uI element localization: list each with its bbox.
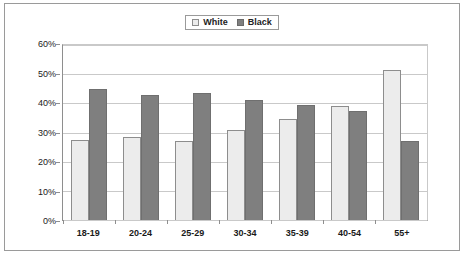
plot-area [62,44,428,221]
bar-black-55+[interactable] [401,141,419,220]
y-tick-label: 60% [38,39,56,49]
x-tick-label-25-29: 25-29 [167,228,219,238]
x-axis: 18-1920-2425-2930-3435-3940-5455+ [62,228,428,238]
bar-black-25-29[interactable] [193,93,211,220]
y-tick-label: 20% [38,157,56,167]
y-tick-mark [56,192,60,193]
x-tick-mark [167,220,168,224]
y-tick-mark [56,44,60,45]
x-tick-mark [219,220,220,224]
bar-white-35-39[interactable] [279,119,297,220]
y-tick-mark [56,74,60,75]
bar-white-18-19[interactable] [71,140,89,220]
x-tick-label-55+: 55+ [376,228,428,238]
chart-legend: White Black [5,15,459,30]
bar-group [271,45,323,220]
legend-label-white: White [203,17,228,27]
bar-white-25-29[interactable] [175,141,193,220]
x-tick-label-35-39: 35-39 [271,228,323,238]
legend-label-black: Black [248,17,272,27]
x-tick-label-18-19: 18-19 [62,228,114,238]
y-tick-label: 0% [43,216,56,226]
y-tick-label: 30% [38,128,56,138]
x-tick-mark [115,220,116,224]
black-square-icon [237,19,244,26]
bar-black-30-34[interactable] [245,100,263,220]
bar-group [167,45,219,220]
x-tick-mark [375,220,376,224]
y-tick-mark [56,133,60,134]
y-tick-mark [56,221,60,222]
legend-entry-white[interactable]: White [192,17,228,27]
x-tick-mark [323,220,324,224]
white-square-icon [192,19,199,26]
bar-black-20-24[interactable] [141,95,159,220]
bar-black-40-54[interactable] [349,111,367,220]
bar-white-20-24[interactable] [123,137,141,220]
y-axis: 60%50%40%30%20%10%0% [5,44,56,221]
x-tick-label-30-34: 30-34 [219,228,271,238]
bar-group [115,45,167,220]
chart-frame: White Black 60%50%40%30%20%10%0% 18-1920… [4,3,460,251]
bar-group [63,45,115,220]
y-tick-label: 10% [38,187,56,197]
bars-layer [63,45,427,220]
x-tick-mark [63,220,64,224]
bar-group [323,45,375,220]
bar-white-40-54[interactable] [331,106,349,220]
bar-black-18-19[interactable] [89,89,107,220]
bar-group [219,45,271,220]
bar-white-55+[interactable] [383,70,401,220]
y-tick-label: 40% [38,98,56,108]
gridline [63,220,427,221]
y-tick-mark [56,103,60,104]
x-tick-label-40-54: 40-54 [323,228,375,238]
y-tick-mark [56,162,60,163]
bar-black-35-39[interactable] [297,105,315,220]
bar-white-30-34[interactable] [227,130,245,220]
x-tick-label-20-24: 20-24 [114,228,166,238]
x-tick-mark [271,220,272,224]
y-tick-label: 50% [38,69,56,79]
legend-entry-black[interactable]: Black [237,17,272,27]
legend-box: White Black [185,15,279,30]
bar-group [375,45,427,220]
